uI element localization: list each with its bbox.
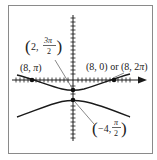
y-axis <box>71 15 76 141</box>
svg-text:π: π <box>114 118 119 127</box>
svg-text:): ) <box>121 119 127 138</box>
label-neg4-pi2: ( −4, π 2 ) <box>92 118 127 138</box>
label-2-3pi2: ( 2, 3π 2 ) <box>25 36 62 56</box>
svg-text:): ) <box>57 37 63 56</box>
leader-2-3pi2 <box>55 60 72 88</box>
label-8-0-or-8-2pi: (8, 0) or (8, 2π) <box>86 61 148 73</box>
point-8-0 <box>112 78 117 83</box>
hyperbola-figure: (8, π) (8, 0) or (8, 2π) ( 2, 3π 2 ) ( −… <box>0 0 157 160</box>
point-2-3pi2 <box>71 88 76 93</box>
svg-text:2: 2 <box>47 47 51 56</box>
svg-text:−4,: −4, <box>98 123 111 134</box>
svg-text:2: 2 <box>114 129 118 138</box>
point-neg4-pi2 <box>71 98 76 103</box>
x-axis-arrow-icon <box>138 77 147 84</box>
svg-text:3π: 3π <box>43 36 53 45</box>
label-8-pi: (8, π) <box>20 62 42 74</box>
point-8-pi <box>30 78 35 83</box>
svg-text:2,: 2, <box>31 41 39 52</box>
diagram-canvas: (8, π) (8, 0) or (8, 2π) ( 2, 3π 2 ) ( −… <box>0 0 157 160</box>
